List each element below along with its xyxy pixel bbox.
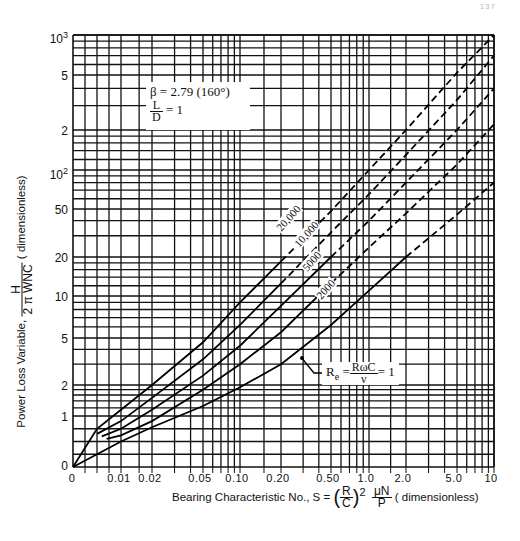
y-tick-label: 10 [38, 291, 68, 303]
parameter-box: β = 2.79 (160°) LD = 1 [146, 82, 250, 130]
y-tick-label: 0 [38, 460, 68, 472]
y-tick-label: 103 [38, 29, 68, 45]
x-tick-label: 0.20 [258, 472, 298, 484]
x-tick-label: 0.10 [217, 472, 257, 484]
chart-curves [73, 35, 494, 467]
y-tick-label: 50 [38, 204, 68, 216]
beta-label: β = 2.79 (160°) [150, 84, 246, 100]
x-tick-label: 5.0 [434, 472, 474, 484]
y-tick-label: 1 [38, 411, 68, 423]
x-tick-label: 0.02 [130, 472, 170, 484]
y-tick-label: 2 [38, 380, 68, 392]
x-tick-label: 0.50 [308, 472, 348, 484]
x-tick-label: 1.0 [346, 472, 386, 484]
y-tick-label: 20 [38, 252, 68, 264]
l-over-d-label: LD = 1 [150, 100, 246, 123]
x-tick-label: 0 [52, 472, 92, 484]
y-tick-label: 102 [38, 165, 68, 181]
y-tick-label: 5 [38, 70, 68, 82]
x-tick-label: 0.05 [180, 472, 220, 484]
chart-plot [0, 0, 520, 541]
reynolds-label: Re =RωCν= 1 [322, 362, 399, 385]
y-tick-label: 2 [38, 125, 68, 137]
curve-re5000 [331, 88, 494, 257]
y-tick-label: 5 [38, 333, 68, 345]
x-tick-label: 10 [471, 472, 511, 484]
x-tick-label: 2.0 [383, 472, 423, 484]
reynolds-leader-line [302, 358, 324, 373]
y-axis-label: Power Loss Variable, H2 π WNC ( dimensio… [11, 152, 34, 452]
curve-re1 [406, 183, 494, 257]
chart-grid [73, 35, 494, 473]
x-axis-label: Bearing Characteristic No., S = (RC)2 μN… [172, 486, 478, 509]
